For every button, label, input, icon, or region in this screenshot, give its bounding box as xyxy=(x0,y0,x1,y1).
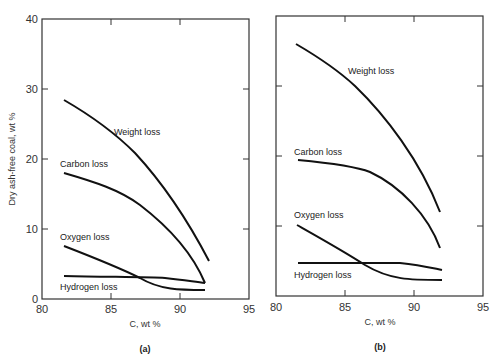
label-oxygen-loss-b: Oxygen loss xyxy=(294,210,344,220)
y-axis-label: Dry ash-free coal, wt % xyxy=(7,112,17,205)
label-carbon-loss-a: Carbon loss xyxy=(60,159,109,169)
panel-label-a: (a) xyxy=(140,344,151,354)
x-axis-label-b: C, wt % xyxy=(364,317,395,327)
x-tick-label: 80 xyxy=(270,301,282,313)
panel-label-b: (b) xyxy=(374,342,386,352)
y-tick-label: 30 xyxy=(26,83,38,95)
curve-carbon-loss-a xyxy=(64,173,205,283)
label-carbon-loss-b: Carbon loss xyxy=(294,147,343,157)
x-tick-label: 95 xyxy=(243,303,255,315)
figure: 40 30 20 10 0 80 85 90 95 C, wt % Dry as… xyxy=(0,0,499,359)
y-tick-label: 40 xyxy=(26,13,38,25)
x-tick-label: 85 xyxy=(339,301,351,313)
x-tick-label: 95 xyxy=(477,301,489,313)
label-hydrogen-loss-b: Hydrogen loss xyxy=(294,270,352,280)
label-hydrogen-loss-a: Hydrogen loss xyxy=(60,282,118,292)
x-tick-label: 90 xyxy=(174,303,186,315)
x-tick-label: 85 xyxy=(105,303,117,315)
label-weight-loss-a: Weight loss xyxy=(114,127,161,137)
label-weight-loss-b: Weight loss xyxy=(348,66,395,76)
x-tick-label: 90 xyxy=(408,301,420,313)
panel-b: 80 85 90 95 C, wt % (b) Weight loss Carb… xyxy=(270,16,489,352)
curve-carbon-loss-b xyxy=(298,160,440,248)
panel-a: 40 30 20 10 0 80 85 90 95 C, wt % Dry as… xyxy=(7,13,255,354)
label-oxygen-loss-a: Oxygen loss xyxy=(60,232,110,242)
x-tick-label: 80 xyxy=(36,303,48,315)
y-tick-label: 20 xyxy=(26,153,38,165)
y-tick-label: 10 xyxy=(26,223,38,235)
x-axis-label-a: C, wt % xyxy=(129,319,160,329)
